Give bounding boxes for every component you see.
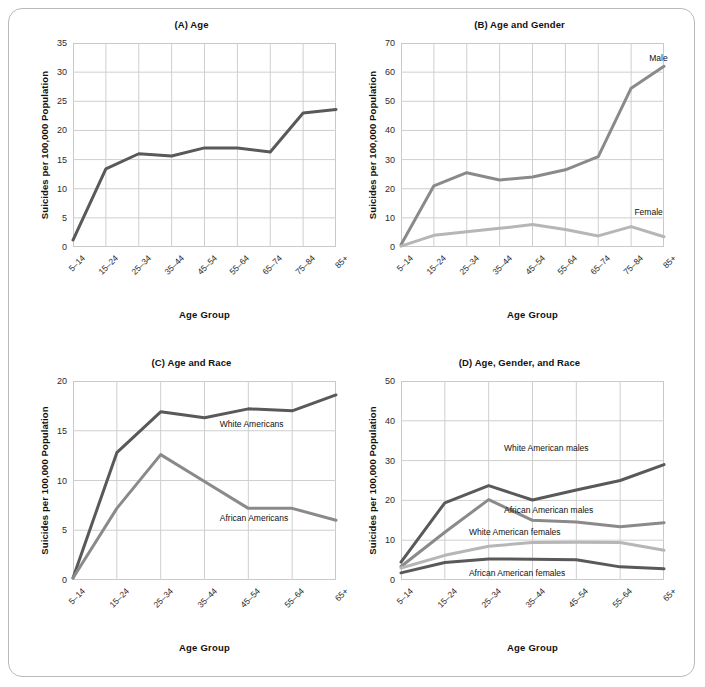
panel-d-plot-area: 010203040505–1415–2425–3435–4445–5455–64… [401,381,664,580]
series-label-african-americans: African Americans [220,513,289,523]
panel-c: (C) Age and Race051015205–1415–2425–3435… [29,357,354,672]
x-tick-label: 55–64 [257,586,306,635]
y-axis-title: Suicides per 100,000 Population [39,43,50,247]
series-label-white-american-males: White American males [504,443,589,453]
panel-c-plot-area: 051015205–1415–2425–3435–4445–5455–6465+… [73,381,336,580]
x-tick-label: 35–44 [169,586,218,635]
panel-d: (D) Age, Gender, and Race010203040505–14… [357,357,682,672]
series-label-female: Female [634,207,662,217]
x-tick-label: 5–14 [366,586,415,635]
gridlines [73,43,336,247]
x-tick-label: 25–34 [125,586,174,635]
x-axis-title: Age Group [401,309,664,320]
series-label-african-american-females: African American females [469,568,565,578]
plot-canvas [401,381,664,580]
plot-canvas [401,43,664,247]
x-tick-label: 25–34 [453,586,502,635]
plot-canvas [73,43,336,247]
x-tick-label: 5–14 [38,586,87,635]
x-tick-label: 35–44 [497,586,546,635]
x-tick-label: 15–24 [81,586,130,635]
x-axis-title: Age Group [73,309,336,320]
x-tick-label: 15–24 [409,586,458,635]
panel-d-title: (D) Age, Gender, and Race [357,357,682,368]
plot-canvas [73,381,336,580]
y-axis-title: Suicides per 100,000 Population [39,381,50,580]
x-axis-title: Age Group [401,642,664,653]
series-label-white-american-females: White American females [469,527,561,537]
x-tick-label: 45–54 [213,586,262,635]
series-label-white-americans: White Americans [220,419,284,429]
y-axis-title: Suicides per 100,000 Population [367,43,378,247]
x-tick-label: 65+ [301,586,350,635]
x-axis-title: Age Group [73,642,336,653]
panel-a: (A) Age051015202530355–1415–2425–3435–44… [29,19,354,339]
figure-border: (A) Age051015202530355–1415–2425–3435–44… [8,8,695,677]
panel-a-title: (A) Age [29,19,354,30]
series-label-african-american-males: African American males [504,505,593,515]
panel-b-title: (B) Age and Gender [357,19,682,30]
panel-a-plot-area: 051015202530355–1415–2425–3435–4445–5455… [73,43,336,247]
x-tick-label: 65+ [629,586,678,635]
gridlines [401,43,664,247]
panel-b: (B) Age and Gender0102030405060705–1415–… [357,19,682,339]
panel-b-plot-area: 0102030405060705–1415–2425–3435–4445–545… [401,43,664,247]
x-tick-label: 45–54 [541,586,590,635]
x-tick-label: 55–64 [585,586,634,635]
y-axis-title: Suicides per 100,000 Population [367,381,378,580]
series-label-male: Male [649,53,667,63]
panel-c-title: (C) Age and Race [29,357,354,368]
